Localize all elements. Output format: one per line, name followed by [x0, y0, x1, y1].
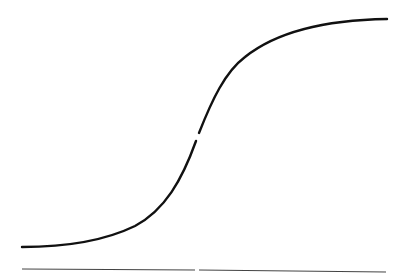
sigmoid-curve-upper — [199, 19, 387, 133]
baseline-left — [22, 269, 195, 270]
sigmoid-curve-lower — [22, 141, 196, 247]
sigmoid-diagram — [0, 0, 406, 276]
baseline-right — [199, 270, 386, 272]
